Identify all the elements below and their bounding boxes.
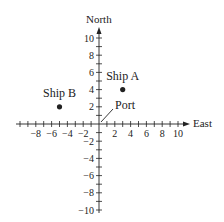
point-label-ship-b: Ship B [43,86,76,100]
y-tick-label: 4 [89,84,94,95]
port-label: Port [115,98,136,112]
y-tick-label: 6 [89,67,94,78]
x-tick-label: 8 [160,128,165,139]
y-tick-label: 10 [84,33,94,44]
y-tick-label: 8 [89,50,94,61]
y-axis-arrow-icon [97,27,102,34]
point-ship-a: Ship A [106,69,139,93]
port-annotation: Port [101,98,136,122]
y-tick-label: −8 [83,187,94,198]
port-leader-line [101,109,113,122]
y-tick-label: −10 [78,205,94,216]
point-label-ship-a: Ship A [106,69,139,83]
coordinate-plane: −8−6−4−2246810108642−2−4−6−8−10 East Nor… [0,0,224,222]
x-tick-label: −4 [62,128,73,139]
x-axis-label-east: East [193,117,212,129]
point-marker-icon [120,87,125,92]
x-tick-label: 6 [144,128,149,139]
x-tick-label: −6 [46,128,57,139]
x-tick-label: −8 [30,128,41,139]
point-marker-icon [57,104,62,109]
y-tick-label: −6 [83,170,94,181]
y-tick-label: −2 [83,136,94,147]
point-ship-b: Ship B [43,86,76,110]
x-tick-label: 10 [173,128,183,139]
x-tick-label: 4 [128,128,133,139]
x-axis-arrow-icon [183,122,190,127]
y-tick-label: −4 [83,153,94,164]
x-tick-label: 2 [112,128,117,139]
y-axis-label-north: North [86,13,112,25]
y-tick-label: 2 [89,101,94,112]
